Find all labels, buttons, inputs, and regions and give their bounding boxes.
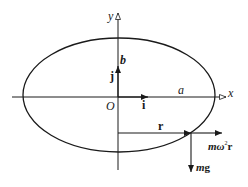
position-vector-label: r xyxy=(158,119,164,133)
semi-minor-label: b xyxy=(120,53,126,67)
ellipse-curve xyxy=(23,38,215,152)
origin-label: O xyxy=(106,99,115,113)
x-axis-label: x xyxy=(227,86,234,100)
semi-major-label: a xyxy=(178,83,184,97)
ellipse-diagram: y x O b a j i r mω2r mg xyxy=(0,0,248,187)
centrifugal-force-label: mω2r xyxy=(208,140,233,152)
y-axis-label: y xyxy=(107,9,114,23)
unit-vector-i-label: i xyxy=(142,98,146,112)
unit-vector-j-label: j xyxy=(109,69,114,83)
gravity-force-label: mg xyxy=(196,161,211,173)
